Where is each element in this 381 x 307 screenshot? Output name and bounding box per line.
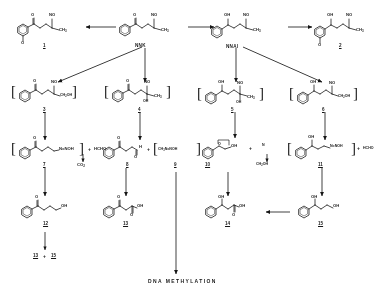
compound-number-5: 5 (231, 108, 234, 113)
bracket-open-11: [ (287, 141, 292, 156)
bracket-close-3: ] (72, 84, 77, 99)
arrow-nnal-to-6 (243, 47, 322, 82)
sum-label-left: 13 (33, 254, 38, 259)
structure-nnk-skeleton (120, 18, 161, 36)
atom-label-OH2-c5: OH (236, 101, 241, 105)
atom-label-OH-c5: OH (218, 80, 224, 84)
atom-label-N-ch2oh: N (262, 144, 265, 148)
structure-7-skeleton (20, 141, 59, 159)
atom-label-CH3-c5: CH3 (247, 95, 255, 100)
atom-label-O-c8: O (117, 136, 120, 140)
atom-label-NO-c6: NO (329, 81, 335, 85)
atom-label-NO-c5: NO (237, 81, 243, 85)
atom-label-O-c3: O (33, 79, 36, 83)
coproduct-hcho-right: HCHO (363, 147, 374, 151)
atom-label-NNOH-c11: N=NOH (330, 145, 343, 149)
coproduct-ch2oh: CH2OH (256, 163, 268, 167)
structure-2-skeleton (315, 19, 356, 43)
compound-number-3: 3 (43, 108, 46, 113)
structure-15-skeleton (299, 199, 333, 218)
atom-label-Ocarbonyl-c14: O (232, 213, 235, 217)
atom-label-O-c1: O (31, 13, 34, 17)
atom-label-OH-c15: OH (311, 195, 317, 199)
structure-11-skeleton (296, 140, 330, 159)
atom-label-O-c4: O (126, 79, 129, 83)
atom-label-NO-c2: NO (346, 13, 352, 17)
atom-label-Ocarbonyl-c8: O (134, 155, 137, 159)
atom-label-CH3-nnal: CH3 (253, 28, 261, 33)
atom-label-O-c13: O (117, 195, 120, 199)
bracket-close-7: ] (79, 141, 84, 156)
atom-label-OH-c2: OH (327, 13, 333, 17)
compound-name-nnk: NNK (135, 44, 146, 49)
sum-label-plus: + (43, 254, 46, 259)
atom-label-O-ring-c10: O (218, 143, 221, 147)
compound-number-4: 4 (138, 108, 141, 113)
structure-10-skeleton (203, 140, 231, 159)
plus-sign-ch2oh: + (249, 146, 252, 151)
bracket-close-4: ] (166, 84, 171, 99)
atom-label-NO-nnk: NO (151, 13, 157, 17)
structure-3-skeleton (20, 84, 60, 102)
plus-sign-hcho-left: + (88, 147, 91, 152)
bracket-open-4: [ (104, 84, 109, 99)
atom-label-NO-c4: NO (144, 80, 150, 84)
atom-label-H-c8: H (139, 145, 142, 149)
atom-label-Ocarbonyl-c13: O (130, 213, 133, 217)
coproduct-co2: CO2 (77, 163, 85, 168)
atom-label-NO-c3: NO (51, 80, 57, 84)
bracket-close-6: ] (353, 86, 358, 101)
atom-label-CH2OH-c6: CH2OH (338, 95, 350, 99)
atom-label-CH3-c4: CH3 (154, 94, 162, 99)
compound-number-15: 15 (318, 222, 323, 227)
compound-number-6: 6 (322, 108, 325, 113)
reaction-scheme-canvas: O NO CH3 O 1 O NO CH3 NNK OH NO CH3 NNAl… (0, 0, 381, 307)
bracket-close-11: ] (351, 141, 356, 156)
compound-name-nnal: NNAl (226, 45, 238, 50)
structure-nnal-skeleton (212, 19, 253, 38)
atom-label-OH2-c15: OH (333, 204, 339, 208)
atom-label-CH3-nnk: CH3 (161, 28, 169, 33)
atom-label-O-c7: O (33, 136, 36, 140)
compound-number-2: 2 (339, 44, 342, 49)
structure-12-skeleton (22, 200, 61, 218)
bracket-open-6: [ (289, 86, 294, 101)
bracket-close-9: ] (196, 141, 201, 156)
atom-label-OH-c14: OH (218, 195, 224, 199)
compound-number-1: 1 (43, 44, 46, 49)
coproduct-hcho-left: HCHO (94, 147, 106, 151)
structure-6-skeleton (298, 85, 338, 104)
bracket-open-3: [ (11, 84, 16, 99)
structure-8-skeleton (104, 141, 137, 159)
atom-label-OH-nnal: OH (224, 13, 230, 17)
compound-number-8: 8 (126, 163, 129, 168)
compound-number-14: 14 (225, 222, 230, 227)
atom-label-NO-nnal: NO (243, 13, 249, 17)
compound-number-11: 11 (318, 163, 323, 168)
atom-label-CH3-c2: CH3 (356, 28, 364, 33)
sum-label-right: 15 (51, 254, 56, 259)
bracket-close-5: ] (259, 86, 264, 101)
atom-label-Noxide-c1: O (21, 41, 24, 45)
atom-label-O-c12: O (35, 195, 38, 199)
atom-label-OH-c10: OH (231, 144, 237, 148)
bracket-open-5: [ (197, 86, 202, 101)
dna-methylation-label: DNA METHYLATION (148, 279, 217, 284)
plus-sign-hcho-right: + (357, 146, 360, 151)
atom-label-OH-c6: OH (310, 80, 316, 84)
atom-label-OH-c11: OH (308, 135, 314, 139)
atom-label-CH2OH-c3: CH2OH (60, 94, 72, 98)
atom-label-CH3-c1: CH3 (59, 28, 67, 33)
atom-label-Noxide-c2: O (318, 43, 321, 47)
atom-label-OH-c12: OH (61, 204, 67, 208)
atom-label-CH3NNOH-c9: CH3N=NOH (158, 148, 177, 152)
compound-number-13: 13 (123, 222, 128, 227)
compound-number-12: 12 (43, 222, 48, 227)
atom-label-O-nnk: O (133, 13, 136, 17)
structure-1-skeleton (18, 18, 59, 41)
atom-label-NO-c1: NO (49, 13, 55, 17)
compound-number-7: 7 (43, 163, 46, 168)
atom-label-OH2-c14: OH (239, 204, 245, 208)
arrow-nnk-to-3 (58, 47, 142, 82)
atom-label-NNOH-c7: N=NOH (59, 147, 74, 151)
